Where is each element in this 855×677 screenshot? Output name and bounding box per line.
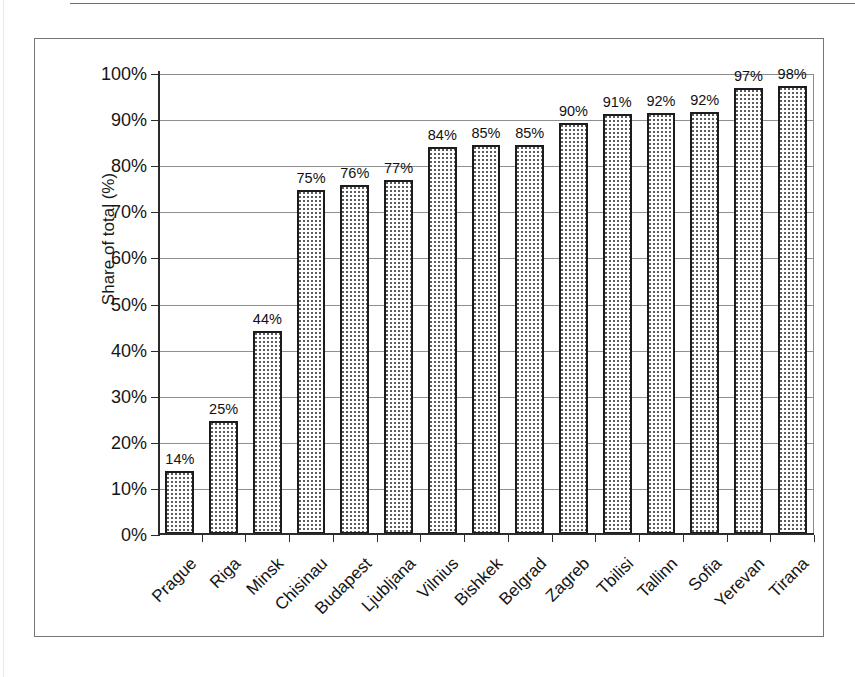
x-axis-tick-mark	[333, 535, 334, 542]
bar-value-label: 85%	[471, 125, 500, 141]
y-axis-tick-mark	[151, 120, 158, 121]
bar	[472, 145, 501, 534]
x-axis-tick-mark	[814, 535, 815, 542]
x-axis-tick-mark	[245, 535, 246, 542]
chart-frame: Share of total (%) 0%10%20%30%40%50%60%7…	[34, 38, 824, 637]
x-axis-tick-mark	[377, 535, 378, 542]
bar	[647, 113, 676, 534]
y-axis-tick-label: 0%	[121, 525, 147, 546]
y-axis-tick-label: 100%	[101, 64, 147, 85]
bar-value-label: 84%	[428, 127, 457, 143]
bar	[340, 185, 369, 534]
bar-value-label: 97%	[734, 68, 763, 84]
y-axis-tick-label: 40%	[111, 340, 147, 361]
bar-value-label: 44%	[253, 311, 282, 327]
y-axis-tick-mark	[151, 489, 158, 490]
x-axis-tick-mark	[289, 535, 290, 542]
y-axis-tick-label: 20%	[111, 432, 147, 453]
y-axis-line	[158, 71, 160, 536]
bar	[559, 123, 588, 534]
bar	[253, 331, 282, 534]
y-axis-tick-label: 70%	[111, 202, 147, 223]
x-axis-line	[158, 533, 814, 535]
x-axis-tick-mark	[595, 535, 596, 542]
bar	[690, 112, 719, 534]
bar	[209, 421, 238, 534]
x-axis-tick-mark	[202, 535, 203, 542]
y-axis-tick-mark	[151, 535, 158, 536]
y-axis-tick-mark	[151, 166, 158, 167]
x-axis-tick-mark	[508, 535, 509, 542]
y-axis-tick-mark	[151, 258, 158, 259]
y-axis-tick-mark	[151, 305, 158, 306]
bar-value-label: 92%	[646, 93, 675, 109]
y-axis-tick-mark	[151, 443, 158, 444]
x-axis-tick-mark	[552, 535, 553, 542]
bar	[603, 114, 632, 534]
bar-value-label: 92%	[690, 92, 719, 108]
y-axis-tick-label: 30%	[111, 386, 147, 407]
y-axis-tick-mark	[151, 212, 158, 213]
bar	[384, 180, 413, 534]
y-axis-tick-mark	[151, 74, 158, 75]
x-axis-tick-mark	[727, 535, 728, 542]
bar-value-label: 90%	[559, 103, 588, 119]
bar	[165, 471, 194, 534]
y-axis-tick-label: 50%	[111, 294, 147, 315]
bar-value-label: 76%	[340, 165, 369, 181]
bar-value-label: 14%	[165, 451, 194, 467]
bar	[734, 88, 763, 534]
bar-value-label: 85%	[515, 125, 544, 141]
y-axis-tick-mark	[151, 397, 158, 398]
bar-value-label: 75%	[297, 170, 326, 186]
bar	[297, 190, 326, 534]
scan-artifact-left-edge	[3, 0, 4, 677]
x-axis-tick-mark	[770, 535, 771, 542]
y-axis-tick-mark	[151, 351, 158, 352]
bar-value-label: 25%	[209, 401, 238, 417]
plot-area: 0%10%20%30%40%50%60%70%80%90%100% 14%25%…	[158, 74, 814, 535]
y-axis-tick-label: 10%	[111, 478, 147, 499]
bar-value-label: 91%	[603, 94, 632, 110]
y-axis-tick-label: 80%	[111, 156, 147, 177]
x-axis-tick-mark	[639, 535, 640, 542]
bar-value-label: 98%	[778, 66, 807, 82]
x-axis-tick-mark	[420, 535, 421, 542]
y-axis-tick-label: 60%	[111, 248, 147, 269]
bar	[515, 145, 544, 534]
x-axis-tick-mark	[683, 535, 684, 542]
y-axis-tick-label: 90%	[111, 110, 147, 131]
bar	[778, 86, 807, 534]
bar-value-label: 77%	[384, 160, 413, 176]
plot-top-border	[158, 74, 814, 75]
scan-artifact-top-line	[70, 3, 855, 4]
bar	[428, 147, 457, 534]
x-axis-tick-mark	[464, 535, 465, 542]
